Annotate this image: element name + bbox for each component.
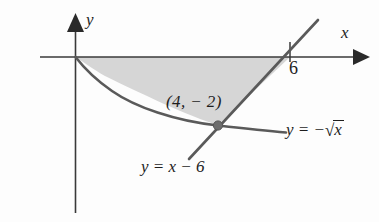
x-axis-arrow-icon	[353, 49, 370, 65]
x-axis-label: x	[341, 24, 349, 41]
y-axis-label: y	[86, 11, 94, 28]
intersection-point-marker	[213, 121, 222, 130]
coordinate-plot	[0, 0, 379, 222]
math-figure: y x 6 (4, − 2) y = −√x y = x − 6	[0, 0, 379, 222]
x-tick-label-6: 6	[289, 59, 298, 77]
y-axis-arrow-icon	[67, 13, 84, 32]
square-root-icon: √x	[325, 119, 344, 139]
radicand: x	[333, 120, 344, 138]
shaded-region	[76, 57, 291, 125]
line-equation-label: y = x − 6	[141, 158, 205, 175]
curve-equation-label: y = −√x	[286, 119, 344, 139]
intersection-point-label: (4, − 2)	[166, 93, 222, 110]
curve-equation-prefix: y = −	[286, 120, 325, 139]
